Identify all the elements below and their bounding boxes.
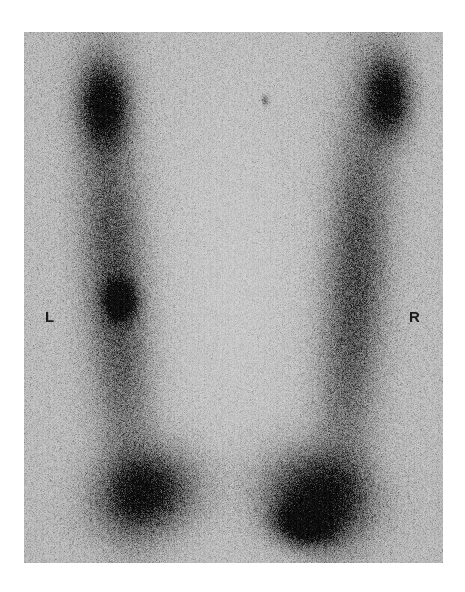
scintigram-plate [24, 32, 443, 563]
scintigram-image [24, 32, 443, 563]
scintigram-figure: L R [0, 0, 465, 592]
orientation-marker-right: R [409, 309, 420, 324]
orientation-marker-left: L [45, 309, 54, 324]
